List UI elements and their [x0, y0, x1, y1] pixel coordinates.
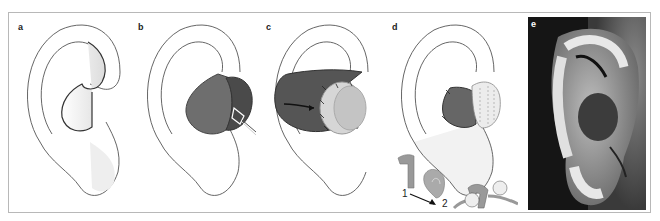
inset-number-2: 2 — [442, 198, 448, 209]
panel-b: b — [130, 12, 256, 213]
panel-e-photo: e — [528, 17, 646, 210]
panel-label-d: d — [392, 22, 398, 32]
panel-a: a — [10, 12, 128, 213]
panel-label-c: c — [266, 22, 271, 32]
ear-flap-rotation-illustration-c — [258, 12, 382, 213]
ear-flap-elevation-illustration-b — [130, 12, 256, 213]
panel-c: c — [258, 12, 382, 213]
panel-d: d 1 2 — [384, 12, 518, 213]
panel-label-e: e — [531, 19, 536, 29]
ear-outline-illustration-a — [10, 12, 128, 213]
ear-graft-illustration-d — [384, 12, 518, 213]
panel-label-a: a — [18, 22, 23, 32]
clinical-photo-ear — [528, 17, 646, 210]
panel-label-b: b — [138, 22, 144, 32]
inset-number-1: 1 — [402, 188, 408, 199]
